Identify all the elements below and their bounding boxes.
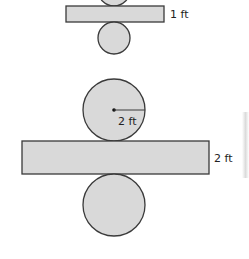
small-cylinder-lateral-face bbox=[66, 6, 164, 22]
large-rect-height-label: 2 ft bbox=[214, 152, 233, 165]
large-cylinder-net: 2 ft 2 ft bbox=[22, 79, 233, 236]
small-cylinder-net: 1 ft bbox=[66, 0, 189, 54]
radius-label: 2 ft bbox=[118, 115, 137, 128]
small-rect-height-label: 1 ft bbox=[170, 8, 189, 21]
page-edge-shadow bbox=[242, 112, 249, 178]
large-cylinder-bottom-base bbox=[83, 174, 145, 236]
cylinder-nets-diagram: 1 ft 2 ft 2 ft bbox=[0, 0, 249, 259]
large-cylinder-lateral-face bbox=[22, 141, 209, 174]
small-cylinder-top-base bbox=[98, 0, 130, 6]
small-cylinder-bottom-base bbox=[98, 22, 130, 54]
